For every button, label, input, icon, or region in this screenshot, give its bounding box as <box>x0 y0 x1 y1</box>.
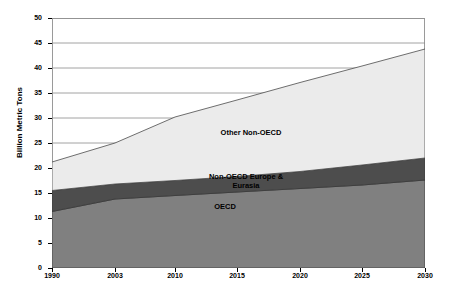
area-label-non-oecd-europe-eurasia: Non-OECD Europe & Eurasia <box>186 172 306 190</box>
y-tick-label-0: 0 <box>16 264 42 271</box>
x-tick-label-2020: 2020 <box>280 272 320 279</box>
y-tick-mark-15 <box>48 193 52 194</box>
x-tick-mark-2020 <box>300 268 301 272</box>
area-label-other-non-oecd: Other Non-OECD <box>196 128 306 137</box>
x-tick-mark-2015 <box>237 268 238 272</box>
area-label-line1: Non-OECD Europe & <box>209 172 283 181</box>
x-tick-label-2015: 2015 <box>217 272 257 279</box>
area-label-oecd: OECD <box>190 202 260 211</box>
x-tick-label-2030: 2030 <box>405 272 445 279</box>
y-tick-mark-45 <box>48 43 52 44</box>
y-tick-label-15: 15 <box>16 189 42 196</box>
area-series-group <box>52 49 425 268</box>
x-tick-mark-2025 <box>362 268 363 272</box>
x-tick-mark-1990 <box>52 268 53 272</box>
x-tick-mark-2030 <box>425 268 426 272</box>
x-tick-label-2010: 2010 <box>155 272 195 279</box>
y-tick-label-10: 10 <box>16 214 42 221</box>
y-tick-mark-50 <box>48 18 52 19</box>
plot-svg <box>52 18 425 268</box>
stacked-area-chart: 50454035302520151050 1990200320102015202… <box>0 0 456 294</box>
x-tick-label-2003: 2003 <box>95 272 135 279</box>
y-axis-title: Billion Metric Tons <box>15 68 24 178</box>
area-label-line2: Eurasia <box>232 181 259 190</box>
x-tick-mark-2010 <box>175 268 176 272</box>
y-tick-mark-35 <box>48 93 52 94</box>
x-tick-label-2025: 2025 <box>342 272 382 279</box>
y-tick-mark-20 <box>48 168 52 169</box>
y-tick-mark-25 <box>48 143 52 144</box>
y-tick-label-50: 50 <box>16 14 42 21</box>
x-tick-mark-2003 <box>115 268 116 272</box>
y-tick-label-5: 5 <box>16 239 42 246</box>
y-tick-mark-10 <box>48 218 52 219</box>
y-tick-mark-5 <box>48 243 52 244</box>
x-tick-label-1990: 1990 <box>32 272 72 279</box>
y-tick-mark-40 <box>48 68 52 69</box>
y-tick-label-45: 45 <box>16 39 42 46</box>
y-tick-mark-30 <box>48 118 52 119</box>
